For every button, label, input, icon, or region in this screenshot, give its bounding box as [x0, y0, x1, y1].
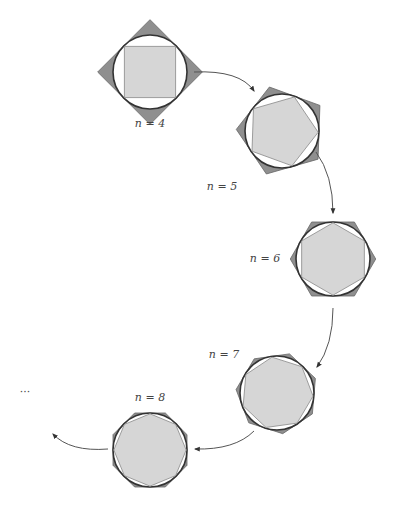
stage-label: n = 7	[209, 348, 239, 361]
inscribed-polygon	[114, 414, 186, 486]
continuation-ellipsis: ···	[20, 386, 31, 399]
arrow	[316, 152, 333, 213]
arrow	[195, 431, 254, 449]
arrow	[53, 434, 108, 449]
polygon-stages: n = 4n = 5n = 6n = 7n = 8	[98, 20, 376, 487]
inscribed-polygon	[124, 46, 175, 97]
stage-label: n = 6	[250, 252, 280, 265]
stage-n-5: n = 5	[207, 87, 320, 193]
arrow	[194, 72, 254, 91]
stage-label: n = 8	[135, 391, 165, 404]
stage-n-4: n = 4	[98, 20, 203, 130]
stage-n-6: n = 6	[250, 222, 376, 296]
arrow	[317, 308, 333, 367]
stage-label: n = 5	[207, 180, 237, 193]
stage-n-8: n = 8	[113, 391, 187, 487]
stage-n-7: n = 7	[209, 348, 316, 434]
stage-label: n = 4	[135, 117, 165, 130]
polygon-approximation-diagram: n = 4n = 5n = 6n = 7n = 8 ···	[0, 0, 394, 518]
